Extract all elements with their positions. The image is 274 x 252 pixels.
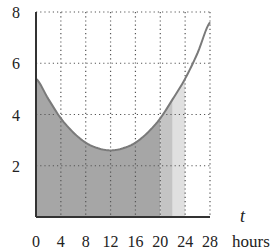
x-tick-label: 24: [177, 233, 193, 250]
chart: 04812162024282468 t hours: [0, 0, 274, 252]
x-tick-label: 20: [152, 233, 168, 250]
x-tick-label: 16: [127, 233, 143, 250]
x-tick-label: 4: [57, 233, 65, 250]
x-axis-label: t: [240, 206, 246, 226]
x-axis-unit-label: hours: [232, 232, 270, 251]
x-tick-label: 8: [82, 233, 90, 250]
x-tick-label: 28: [202, 233, 218, 250]
y-tick-label: 4: [12, 107, 20, 124]
shaded-region-2: [173, 79, 185, 217]
y-tick-label: 2: [12, 158, 20, 175]
x-tick-label: 0: [32, 233, 40, 250]
y-tick-label: 6: [12, 55, 20, 72]
x-tick-label: 12: [103, 233, 119, 250]
shaded-regions: [36, 79, 185, 217]
y-tick-label: 8: [12, 4, 20, 21]
